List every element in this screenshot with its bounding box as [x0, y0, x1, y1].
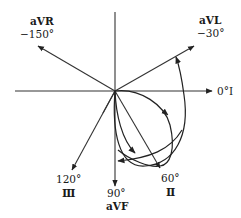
label-aVR-name: aVR — [30, 15, 54, 27]
label-aVL-name: aVL — [199, 14, 222, 26]
lead-aVR-vector — [38, 46, 115, 91]
hexaxial-diagram: aVR −150° aVL −30° 0°Ⅰ 60° Ⅱ 90° aVF 120… — [0, 0, 241, 218]
label-aVF-name: aVF — [106, 200, 129, 212]
label-aVL-angle: −30° — [197, 27, 224, 39]
label-lead-II-name: Ⅱ — [166, 186, 175, 198]
label-lead-III-angle: 120° — [56, 173, 81, 185]
label-aVR-angle: −150° — [20, 28, 54, 40]
label-lead-I: 0°Ⅰ — [217, 85, 233, 97]
label-aVF-angle: 90° — [107, 187, 126, 199]
inner-loop-arrow-1 — [115, 91, 135, 153]
ellipse-loop-arrow — [150, 100, 168, 115]
lead-III-vector — [72, 91, 115, 170]
labels: aVR −150° aVL −30° 0°Ⅰ 60° Ⅱ 90° aVF 120… — [20, 14, 233, 212]
label-lead-II-angle: 60° — [161, 172, 180, 184]
label-lead-III-name: Ⅲ — [62, 187, 75, 199]
